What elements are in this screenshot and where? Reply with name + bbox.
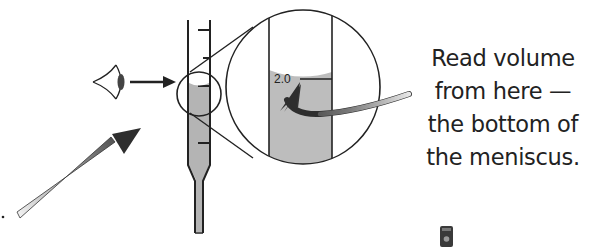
stopcock-fragment [440, 226, 453, 247]
caption-line-1: Read volume [408, 42, 598, 75]
bullet-dot [2, 216, 5, 219]
caption-line-2: from here — [408, 75, 598, 108]
caption: Read volume from here — the bottom of th… [408, 42, 598, 174]
eye-icon [93, 65, 125, 99]
caption-line-3: the bottom of [408, 108, 598, 141]
caption-line-4: the meniscus. [408, 141, 598, 174]
burette-liquid [189, 83, 209, 232]
graduation-label: 2.0 [274, 72, 291, 86]
magnifier-circle: 2.0 [226, 0, 380, 175]
arrow-right-icon [130, 76, 176, 88]
gradient-arrow-icon [17, 128, 141, 218]
burette [188, 20, 210, 233]
